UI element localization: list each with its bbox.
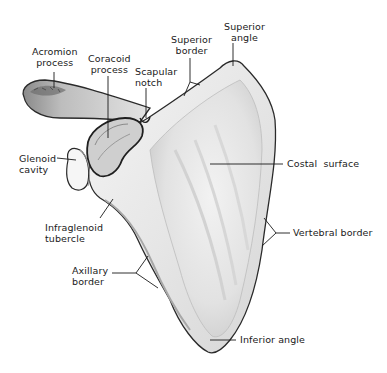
- label-line: process: [32, 57, 78, 68]
- label-acromion-process: Acromion process: [32, 46, 78, 68]
- label-line: tubercle: [45, 233, 103, 244]
- scapula-diagram: Acromion process Coracoid process Scapul…: [0, 0, 387, 373]
- label-line: border: [171, 45, 212, 56]
- label-line: Inferior angle: [240, 334, 305, 345]
- label-line: process: [88, 64, 131, 75]
- acromion-process-shape: [23, 80, 150, 122]
- label-infraglenoid-tubercle: Infraglenoid tubercle: [45, 222, 103, 244]
- label-line: Coracoid: [88, 53, 131, 64]
- glenoid-cavity-shape: [67, 148, 90, 190]
- label-line: Infraglenoid: [45, 222, 103, 233]
- label-coracoid-process: Coracoid process: [88, 53, 131, 75]
- label-line: Scapular: [135, 66, 177, 77]
- label-line: Superior: [171, 34, 212, 45]
- label-line: Vertebral border: [293, 227, 372, 238]
- label-line: Glenoid: [19, 153, 56, 164]
- label-superior-border: Superior border: [171, 34, 212, 56]
- label-scapular-notch: Scapular notch: [135, 66, 177, 88]
- label-superior-angle: Superior angle: [224, 21, 265, 43]
- label-line: border: [72, 276, 108, 287]
- label-inferior-angle: Inferior angle: [240, 334, 305, 345]
- label-costal-surface: Costal surface: [287, 158, 359, 169]
- label-line: Superior: [224, 21, 265, 32]
- label-line: Costal surface: [287, 158, 359, 169]
- label-line: notch: [135, 77, 177, 88]
- label-line: angle: [224, 32, 265, 43]
- label-vertebral-border: Vertebral border: [293, 227, 372, 238]
- label-line: Axillary: [72, 265, 108, 276]
- label-axillary-border: Axillary border: [72, 265, 108, 287]
- label-line: Acromion: [32, 46, 78, 57]
- label-glenoid-cavity: Glenoid cavity: [19, 153, 56, 175]
- label-line: cavity: [19, 164, 56, 175]
